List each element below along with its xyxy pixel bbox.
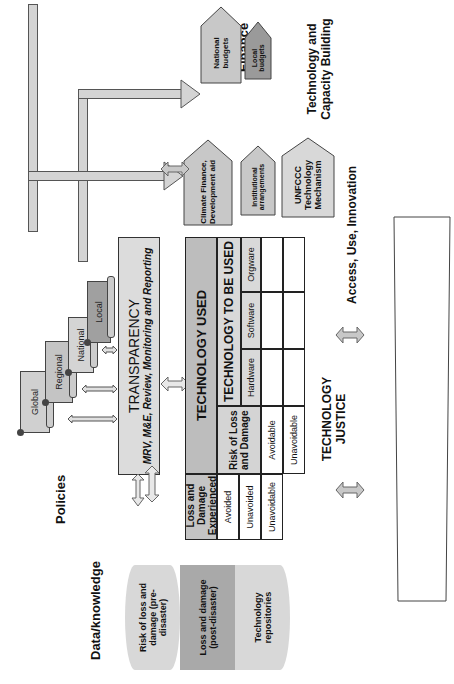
scroll-connectors <box>0 254 120 454</box>
tech-col-software: Software <box>241 292 261 349</box>
loss-row-unavoidable: Unavoidable <box>261 474 283 540</box>
loss-row-avoided: Avoided <box>217 474 239 540</box>
cylinder-segment-risk: Risk of loss and damage (pre-disaster) <box>125 565 180 670</box>
technology-capacity-label: Technology and Capacity Building <box>305 14 333 124</box>
technology-justice-label: TECHNOLOGY JUSTICE <box>320 374 348 464</box>
justice-arrow-left <box>335 476 365 504</box>
institutional-arrangements-box: Institutional arrangements <box>241 160 275 214</box>
cylinder-segment-loss: Loss and damage (post-disaster) <box>180 565 235 670</box>
climate-finance-box: Climate Finance, Development aid <box>184 160 232 224</box>
policies-table-arrow <box>140 464 164 504</box>
cylinder-segment-repositories: Technology repositories <box>235 565 290 670</box>
policies-label: Policies <box>53 475 68 524</box>
technology-to-be-used-header: TECHNOLOGY TO BE USED <box>217 237 241 406</box>
people-row <box>400 244 444 564</box>
grid-cell <box>261 237 283 292</box>
grid-cell <box>283 292 305 349</box>
transparency-box: TRANSPARENCY MRV, M&E, Review, Monitorin… <box>118 237 160 475</box>
loss-damage-experienced-header: Loss and Damage Experienced <box>185 474 217 540</box>
arrow-to-climate-shaft <box>28 171 172 181</box>
access-use-innovation-label: Access, Use, Innovation <box>345 166 359 304</box>
loss-row-unavoided: Unavoided <box>239 474 261 540</box>
national-budgets-box: National budgets <box>201 24 241 82</box>
technology-justice-diagram: Finance National budgets Local budgets C… <box>0 0 454 684</box>
risk-loss-damage-header: Risk of Loss and Damage <box>217 406 261 474</box>
technology-used-header: TECHNOLOGY USED <box>185 237 217 474</box>
data-knowledge-label: Data/knowledge <box>88 561 103 660</box>
arrow-to-finance-shaft <box>78 89 188 99</box>
arrow-to-finance-head <box>180 79 202 109</box>
grid-cell <box>261 292 283 349</box>
transparency-subtitle: MRV, M&E, Review, Monitoring and Reporti… <box>142 248 153 465</box>
grid-cell <box>261 349 283 406</box>
transparency-to-table-arrow-top <box>160 154 190 184</box>
risk-row-avoidable: Avoidable <box>261 406 283 474</box>
arrow-to-climate-stem <box>28 4 38 232</box>
transparency-title: TRANSPARENCY <box>126 299 142 413</box>
data-cylinder: Risk of loss and damage (pre-disaster) L… <box>125 565 290 670</box>
tech-col-orgware: Orgware <box>241 237 261 292</box>
local-budgets-box: Local budgets <box>245 38 271 78</box>
grid-cell <box>283 349 305 406</box>
unfccc-mechanism-box: UNFCCC Technology Mechanism <box>282 154 334 216</box>
tech-col-hardware: Hardware <box>241 349 261 406</box>
risk-row-unavoidable: Unavoidable <box>283 406 305 474</box>
justice-arrow-right <box>335 321 365 349</box>
grid-cell <box>283 237 305 292</box>
